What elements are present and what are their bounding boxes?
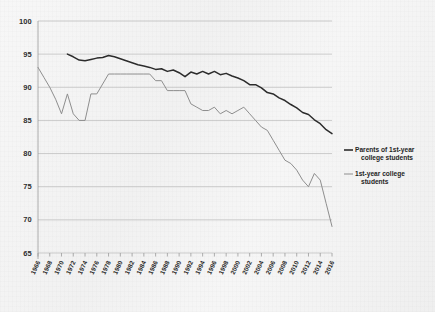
y-tick-label-85: 85 <box>23 116 32 125</box>
legend-label-1-line2: students <box>361 178 389 185</box>
line-chart: 10095908580757065 1966196819701972197419… <box>0 0 435 312</box>
y-axis-tick-labels: 10095908580757065 <box>19 17 32 258</box>
y-tick-label-95: 95 <box>23 50 32 59</box>
y-tick-label-70: 70 <box>23 215 32 224</box>
legend-label-0-line1: Parents of 1st-year <box>355 146 415 154</box>
x-tick-label-2016: 2016 <box>323 259 336 275</box>
series-line-parents <box>67 54 332 134</box>
gridlines-group <box>38 21 332 253</box>
x-axis-tick-labels: 1966196819701972197419761978198019821984… <box>29 253 336 275</box>
legend-label-0-line2: college students <box>361 154 413 162</box>
y-tick-label-65: 65 <box>23 249 32 258</box>
chart-container: 10095908580757065 1966196819701972197419… <box>0 0 435 312</box>
legend: Parents of 1st-yearcollege students1st-y… <box>344 146 415 185</box>
series-line-students <box>38 67 332 226</box>
y-tick-label-100: 100 <box>19 17 32 26</box>
y-tick-label-90: 90 <box>23 83 32 92</box>
series-lines-group <box>38 54 332 226</box>
legend-label-1-line1: 1st-year college <box>355 170 405 178</box>
y-tick-label-75: 75 <box>23 182 32 191</box>
y-tick-label-80: 80 <box>23 149 32 158</box>
